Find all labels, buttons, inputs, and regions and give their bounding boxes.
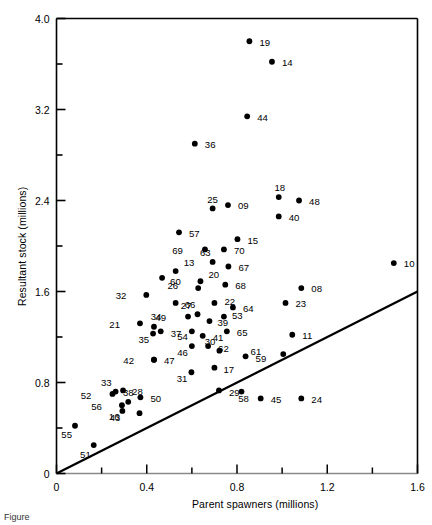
data-point-label-14: 14 — [282, 57, 293, 68]
data-point-label-13: 13 — [184, 257, 195, 268]
data-point-label-53: 53 — [232, 310, 243, 321]
data-point-47[interactable] — [151, 357, 157, 363]
data-point-label-20: 20 — [208, 269, 219, 280]
data-point-label-10: 10 — [404, 258, 415, 269]
data-point-23[interactable] — [283, 300, 289, 306]
data-point-label-55: 55 — [61, 429, 72, 440]
data-point-14[interactable] — [269, 59, 275, 65]
data-point-16[interactable] — [137, 410, 143, 416]
data-point-59[interactable] — [243, 353, 249, 359]
data-point-15[interactable] — [235, 236, 241, 242]
data-point-54[interactable] — [189, 328, 195, 334]
data-point-label-27: 27 — [181, 300, 192, 311]
data-point-50[interactable] — [138, 394, 144, 400]
data-point-label-58: 58 — [238, 393, 249, 404]
data-point-label-65: 65 — [237, 327, 248, 338]
x-tick-label-0: 0 — [54, 481, 60, 493]
data-point-label-15: 15 — [247, 235, 258, 246]
data-point-36[interactable] — [192, 141, 198, 147]
data-point-27[interactable] — [195, 311, 201, 317]
data-point-label-25: 25 — [207, 194, 218, 205]
data-point-44[interactable] — [244, 113, 250, 119]
data-point-63[interactable] — [210, 259, 216, 265]
data-point-30[interactable] — [217, 348, 223, 354]
data-point-08[interactable] — [298, 285, 304, 291]
data-point-52[interactable] — [110, 391, 116, 397]
data-point-label-51: 51 — [80, 449, 91, 460]
data-point-17[interactable] — [212, 365, 218, 371]
data-point-66[interactable] — [173, 300, 179, 306]
data-point-19[interactable] — [247, 38, 253, 44]
y-tick-label-1.6: 1.6 — [35, 286, 50, 298]
data-point-56[interactable] — [119, 402, 125, 408]
data-point-label-52: 52 — [81, 390, 92, 401]
y-axis-title: Resultant stock (millions) — [16, 186, 28, 305]
data-point-21[interactable] — [137, 320, 143, 326]
data-point-38[interactable] — [125, 399, 131, 405]
data-point-29[interactable] — [216, 388, 222, 394]
data-point-65[interactable] — [224, 328, 230, 334]
data-point-48[interactable] — [296, 198, 302, 204]
data-point-18[interactable] — [276, 194, 282, 200]
data-point-32[interactable] — [143, 292, 149, 298]
data-point-40[interactable] — [276, 214, 282, 220]
data-point-46[interactable] — [189, 343, 195, 349]
data-point-34[interactable] — [151, 324, 157, 330]
data-point-55[interactable] — [72, 423, 78, 429]
data-point-49[interactable] — [185, 314, 191, 320]
data-point-label-35: 35 — [138, 334, 149, 345]
data-point-22[interactable] — [212, 300, 218, 306]
data-point-35[interactable] — [150, 331, 156, 337]
data-point-label-63: 63 — [200, 247, 211, 258]
data-point-label-69: 69 — [172, 245, 183, 256]
data-points-group: 1914443618482509405715706967631310602068… — [61, 37, 414, 461]
data-point-31[interactable] — [189, 369, 195, 375]
data-point-label-26: 26 — [168, 280, 179, 291]
data-point-57[interactable] — [176, 229, 182, 235]
data-point-45[interactable] — [258, 396, 264, 402]
data-point-label-30: 30 — [205, 336, 216, 347]
y-tick-label-3.2: 3.2 — [35, 104, 50, 116]
x-tick-label-1.2: 1.2 — [320, 481, 335, 493]
figure-scatter-plot: 00.81.62.43.24.000.40.81.21.619144436184… — [0, 0, 432, 525]
data-point-label-08: 08 — [311, 283, 322, 294]
data-point-label-18: 18 — [274, 182, 285, 193]
data-point-label-24: 24 — [311, 394, 322, 405]
figure-caption: Figure — [4, 512, 30, 522]
data-point-10[interactable] — [391, 260, 397, 266]
data-point-label-21: 21 — [109, 319, 120, 330]
data-point-label-32: 32 — [116, 290, 127, 301]
data-point-13[interactable] — [173, 268, 179, 274]
data-point-label-47: 47 — [164, 355, 175, 366]
data-point-label-59: 59 — [256, 353, 267, 364]
data-point-51[interactable] — [91, 442, 97, 448]
data-point-60[interactable] — [159, 275, 165, 281]
data-point-61[interactable] — [280, 351, 286, 357]
data-point-label-17: 17 — [223, 364, 234, 375]
data-point-68[interactable] — [222, 282, 228, 288]
data-point-label-46: 46 — [177, 347, 188, 358]
data-point-39[interactable] — [207, 318, 213, 324]
data-point-09[interactable] — [225, 202, 231, 208]
data-point-label-23: 23 — [296, 298, 307, 309]
data-point-26[interactable] — [195, 285, 201, 291]
data-point-37[interactable] — [158, 328, 164, 334]
data-point-label-19: 19 — [259, 37, 270, 48]
x-axis-title: Parent spawners (millions) — [192, 498, 318, 510]
data-point-label-09: 09 — [238, 200, 249, 211]
data-point-label-64: 64 — [243, 303, 254, 314]
data-point-25[interactable] — [210, 206, 216, 212]
data-point-11[interactable] — [289, 332, 295, 338]
data-point-label-67: 67 — [238, 262, 249, 273]
y-tick-label-4.0: 4.0 — [35, 13, 50, 25]
data-point-label-54: 54 — [177, 331, 188, 342]
data-point-label-70: 70 — [234, 245, 245, 256]
data-point-70[interactable] — [221, 247, 227, 253]
x-tick-label-0.4: 0.4 — [139, 481, 154, 493]
data-point-label-36: 36 — [205, 139, 216, 150]
data-point-label-48: 48 — [309, 196, 320, 207]
data-point-label-42: 42 — [123, 355, 134, 366]
data-point-24[interactable] — [298, 396, 304, 402]
data-point-67[interactable] — [226, 264, 232, 270]
data-point-20[interactable] — [198, 278, 204, 284]
